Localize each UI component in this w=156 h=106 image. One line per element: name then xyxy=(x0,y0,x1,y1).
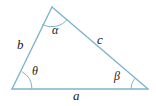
angle-beta-arc xyxy=(131,79,135,90)
angle-label-theta: θ xyxy=(32,65,38,77)
side-label-a: a xyxy=(73,89,80,102)
angle-label-beta: β xyxy=(114,70,120,82)
triangle-figure: b c a α θ β xyxy=(0,0,156,106)
angle-theta-arc xyxy=(22,72,32,89)
angle-label-alpha: α xyxy=(52,24,58,36)
side-label-c: c xyxy=(97,33,103,46)
side-c-line xyxy=(52,7,148,89)
side-label-b: b xyxy=(17,38,24,51)
